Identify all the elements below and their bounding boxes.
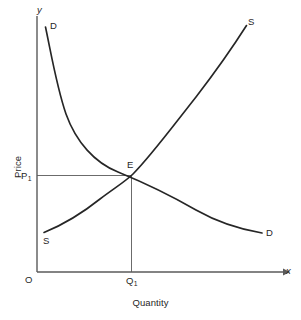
origin-label: O [25, 275, 33, 285]
x-axis-symbol: x [286, 266, 291, 276]
supply-curve-label-top: S [248, 17, 254, 27]
supply-demand-figure: y x O D D S S E P1 Q1 Price Quantity [0, 0, 301, 320]
y-axis-symbol: y [37, 5, 42, 15]
price-equilibrium-subscript: 1 [28, 175, 32, 182]
demand-curve [46, 27, 263, 233]
chart-canvas [0, 0, 301, 320]
supply-curve-label-bottom: S [43, 236, 49, 246]
y-axis-title: Price [13, 156, 23, 178]
quantity-equilibrium-label: Q1 [126, 276, 137, 286]
quantity-equilibrium-subscript: 1 [134, 280, 138, 287]
page-edge-artifact [48, 0, 50, 7]
demand-curve-label-bottom: D [266, 228, 273, 238]
x-axis-title: Quantity [0, 298, 301, 308]
equilibrium-point-label: E [127, 160, 133, 170]
quantity-equilibrium-letter: Q [126, 275, 134, 286]
supply-curve [44, 26, 247, 233]
demand-curve-label-top: D [50, 21, 57, 31]
